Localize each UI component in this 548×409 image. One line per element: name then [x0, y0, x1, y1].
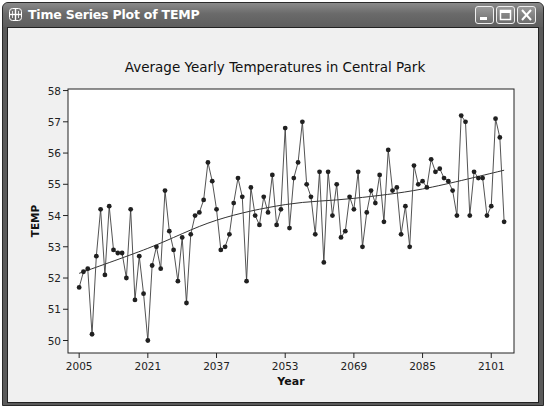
data-point	[399, 232, 404, 237]
data-point	[300, 119, 305, 124]
data-point	[85, 266, 90, 271]
data-point	[309, 194, 314, 199]
chart-title: Average Yearly Temperatures in Central P…	[125, 59, 426, 75]
data-point	[455, 213, 460, 218]
data-point	[120, 251, 125, 256]
data-point	[382, 219, 387, 224]
data-point	[390, 188, 395, 193]
data-point	[420, 179, 425, 184]
minimize-button[interactable]	[475, 6, 494, 24]
data-point	[261, 194, 266, 199]
x-axis: 2005202120372053206920852101	[66, 353, 505, 372]
data-point	[244, 279, 249, 284]
data-point	[476, 176, 481, 181]
data-point	[463, 119, 468, 124]
data-point	[270, 173, 275, 178]
data-point	[347, 194, 352, 199]
data-point	[343, 229, 348, 234]
data-point	[416, 182, 421, 187]
data-point	[188, 232, 193, 237]
x-tick-label: 2101	[478, 360, 505, 372]
y-tick-label: 52	[48, 272, 61, 284]
data-point	[231, 201, 236, 206]
window-title: Time Series Plot of TEMP	[28, 7, 199, 22]
y-tick-label: 56	[48, 147, 62, 159]
time-series-plot-window: Time Series Plot of TEMP Average Yearly …	[2, 2, 544, 406]
data-point	[103, 272, 108, 277]
data-point	[480, 176, 485, 181]
data-point	[175, 279, 180, 284]
data-point	[137, 254, 142, 259]
data-point	[197, 210, 202, 215]
data-point	[304, 182, 309, 187]
data-point	[236, 176, 241, 181]
data-point	[450, 188, 455, 193]
data-point	[210, 179, 215, 184]
data-point	[206, 160, 211, 165]
data-point	[77, 285, 82, 290]
data-point	[167, 229, 172, 234]
data-point	[248, 185, 253, 190]
y-tick-label: 57	[48, 116, 61, 128]
data-point	[218, 247, 223, 252]
data-point	[257, 223, 262, 228]
x-tick-label: 2005	[66, 360, 93, 372]
x-tick-label: 2085	[409, 360, 436, 372]
data-point	[356, 169, 361, 174]
data-point	[283, 126, 288, 131]
data-point	[424, 185, 429, 190]
maximize-button[interactable]	[496, 6, 515, 24]
data-point	[107, 204, 112, 209]
data-point	[90, 332, 95, 337]
data-point	[485, 213, 490, 218]
data-point	[317, 169, 322, 174]
data-point	[227, 232, 232, 237]
y-tick-label: 58	[48, 85, 61, 97]
data-point	[287, 226, 292, 231]
maximize-icon	[497, 7, 514, 23]
data-point	[184, 301, 189, 306]
x-axis-label: Year	[276, 375, 305, 388]
data-point	[437, 166, 442, 171]
close-icon	[518, 7, 535, 23]
data-point	[124, 276, 129, 281]
minimize-icon	[476, 7, 493, 23]
x-tick-label: 2053	[272, 360, 299, 372]
data-point	[98, 207, 103, 212]
data-point	[171, 247, 176, 252]
data-point	[502, 219, 507, 224]
data-point	[412, 163, 417, 168]
data-point	[369, 188, 374, 193]
data-point	[497, 135, 502, 140]
data-point	[403, 204, 408, 209]
y-tick-label: 53	[48, 241, 61, 253]
data-point	[330, 213, 335, 218]
data-point	[472, 169, 477, 174]
data-point	[94, 254, 99, 259]
data-point	[133, 297, 138, 302]
data-point	[240, 194, 245, 199]
y-axis: 505152535455565758	[48, 85, 68, 347]
data-point	[193, 213, 198, 218]
data-point	[180, 235, 185, 240]
data-point	[223, 244, 228, 249]
y-tick-label: 54	[48, 210, 62, 222]
close-button[interactable]	[517, 6, 536, 24]
data-point	[279, 207, 284, 212]
data-point	[339, 235, 344, 240]
time-series-chart: Average Yearly Temperatures in Central P…	[8, 28, 538, 402]
grid-window-icon	[9, 8, 22, 21]
data-point	[141, 291, 146, 296]
data-point	[351, 207, 356, 212]
x-tick-label: 2037	[203, 360, 230, 372]
data-point	[145, 338, 150, 343]
data-point	[154, 244, 159, 249]
window-titlebar[interactable]: Time Series Plot of TEMP	[3, 3, 543, 27]
data-point	[446, 179, 451, 184]
y-tick-label: 55	[48, 178, 61, 190]
data-point	[433, 169, 438, 174]
y-axis-label: TEMP	[29, 204, 41, 237]
data-point	[128, 207, 133, 212]
plot-area	[68, 89, 514, 353]
data-point	[467, 213, 472, 218]
